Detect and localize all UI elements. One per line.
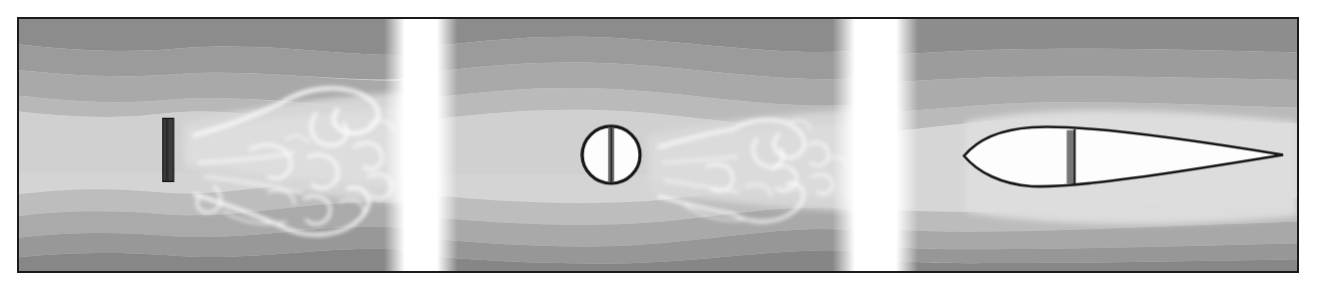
gap-between-panel-1-and-2 <box>384 19 458 271</box>
figure-frame <box>17 17 1299 273</box>
flow-visualization-canvas <box>19 19 1297 271</box>
screenshot-stage <box>0 0 1319 295</box>
gap-between-panel-2-and-3 <box>832 19 918 271</box>
circular-cylinder <box>582 126 640 183</box>
flat-plate <box>163 118 174 181</box>
